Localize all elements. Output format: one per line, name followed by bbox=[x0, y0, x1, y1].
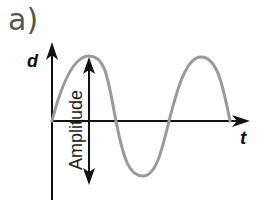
wave-diagram bbox=[0, 0, 268, 200]
y-axis-label: d bbox=[27, 51, 38, 72]
x-axis-label: t bbox=[240, 127, 246, 149]
amplitude-label: Amplitude bbox=[66, 90, 87, 170]
